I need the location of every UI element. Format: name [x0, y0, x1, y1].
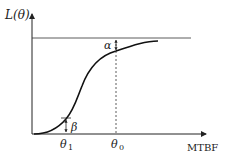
theta0-subscript: 0 [119, 143, 124, 152]
theta1-subscript: 1 [68, 143, 73, 152]
theta0-tick-label: θ 0 [111, 138, 124, 152]
y-axis-label: L(θ) [4, 8, 30, 22]
theta0-symbol: θ [111, 138, 118, 151]
theta1-tick-label: θ 1 [60, 138, 73, 152]
x-axis-label: MTBF [187, 142, 218, 153]
theta1-symbol: θ [60, 138, 67, 151]
oc-curve-diagram: L(θ) α β θ 1 θ 0 MTBF [0, 0, 227, 160]
oc-curve [34, 41, 158, 134]
beta-label: β [70, 121, 77, 134]
alpha-label: α [104, 39, 112, 52]
